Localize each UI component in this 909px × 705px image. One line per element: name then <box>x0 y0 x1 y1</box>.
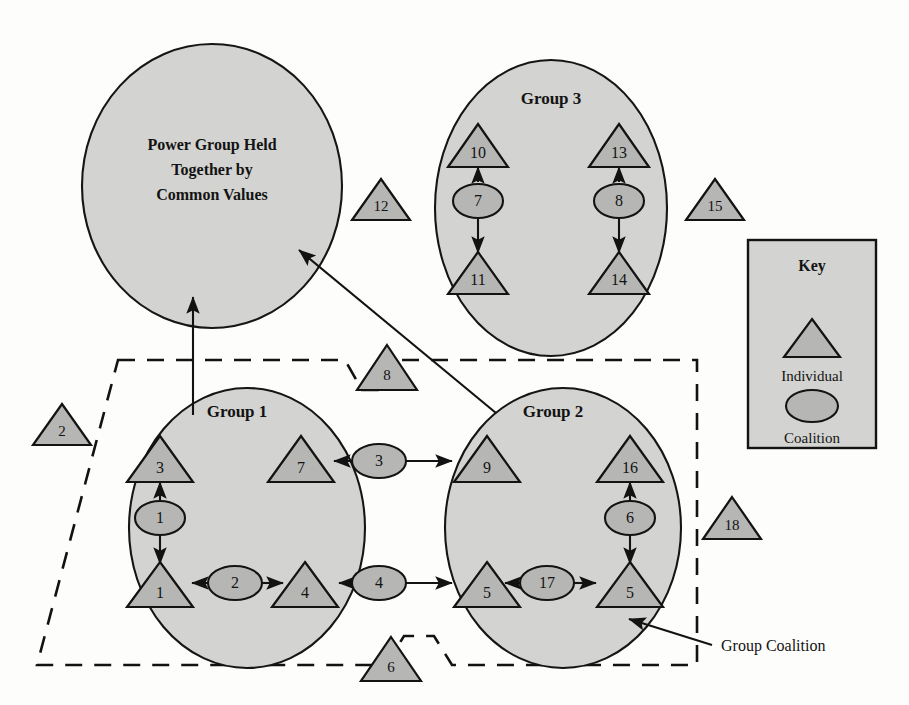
individual-g3-13-label: 13 <box>611 144 627 161</box>
key-individual-label: Individual <box>781 368 843 384</box>
individual-g2-17-label: 5 <box>626 584 634 601</box>
coalition-bridge-4-label: 4 <box>375 574 383 591</box>
key-coalition-icon <box>786 390 838 422</box>
individual-g2-16-label: 16 <box>622 459 638 476</box>
power-group-diagram: Power Group Held Together by Common Valu… <box>0 0 909 705</box>
key-coalition-label: Coalition <box>784 430 840 446</box>
coalition-g2-5-label: 17 <box>539 574 555 591</box>
group3-label: Group 3 <box>521 89 582 108</box>
coalition-g1-2-label: 2 <box>231 574 239 591</box>
power-group-line1: Power Group Held <box>147 136 276 154</box>
individual-outside-18-label: 18 <box>725 517 740 533</box>
coalition-g3-8-label: 8 <box>615 192 623 209</box>
coalition-g1-1-label: 1 <box>156 509 164 526</box>
individual-outside-15-label: 15 <box>708 198 723 214</box>
diagram-canvas: Power Group Held Together by Common Valu… <box>0 0 909 705</box>
individual-g1-4-label: 4 <box>301 584 309 601</box>
group2-label: Group 2 <box>523 402 584 421</box>
individual-outside-8-label: 8 <box>383 367 391 383</box>
group1-label: Group 1 <box>207 402 268 421</box>
key-title: Key <box>798 257 826 275</box>
coalition-bridge-3-label: 3 <box>375 452 383 469</box>
callout-group-coalition-label: Group Coalition <box>721 637 825 655</box>
coalition-g2-6-label: 6 <box>626 509 634 526</box>
individual-g3-10-label: 10 <box>470 144 486 161</box>
individual-g3-14-label: 14 <box>611 271 627 288</box>
individual-outside-12-label: 12 <box>374 198 389 214</box>
individual-outside-6-label: 6 <box>387 659 395 675</box>
individual-g1-7-label: 7 <box>297 459 305 476</box>
coalition-g3-7-label: 7 <box>474 192 482 209</box>
power-group-line2: Together by <box>171 161 252 179</box>
individual-g2-5-label: 5 <box>483 584 491 601</box>
individual-g2-9-label: 9 <box>483 459 491 476</box>
individual-g3-11-label: 11 <box>470 271 485 288</box>
individual-g1-3-label: 3 <box>156 459 164 476</box>
power-group-line3: Common Values <box>156 186 268 203</box>
individual-outside-2-label: 2 <box>58 423 66 439</box>
individual-g1-1-label: 1 <box>156 584 164 601</box>
